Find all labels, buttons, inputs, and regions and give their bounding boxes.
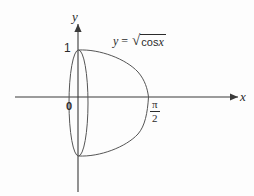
x-tick-label-pi-over-two: π 2 bbox=[150, 99, 160, 124]
curve-lower-mirrored bbox=[79, 97, 149, 156]
figure-canvas bbox=[0, 0, 254, 196]
y-axis-arrowhead bbox=[74, 24, 81, 32]
x-axis-label: x bbox=[240, 90, 246, 103]
fraction-pi-over-two: π 2 bbox=[150, 99, 160, 124]
origin-label: 0 bbox=[66, 101, 72, 112]
x-axis-arrowhead bbox=[230, 93, 238, 100]
math-figure: y x 1 0 π 2 y = √ cosx bbox=[0, 0, 254, 196]
equation-label: y = √ cosx bbox=[113, 35, 166, 50]
x-axis bbox=[15, 93, 238, 100]
fraction-numerator: π bbox=[150, 99, 160, 112]
radicand-function: cos bbox=[141, 36, 158, 48]
radicand-variable: x bbox=[158, 35, 163, 49]
equation-left-side: y bbox=[113, 35, 118, 47]
y-axis bbox=[74, 24, 81, 192]
radicand: cosx bbox=[140, 34, 165, 49]
curve-upper-sqrt-cos bbox=[79, 50, 149, 97]
radical-expression: √ cosx bbox=[132, 35, 166, 50]
equation-equals-sign: = bbox=[121, 35, 128, 47]
radical-sign-icon: √ bbox=[132, 33, 140, 48]
y-tick-label-one: 1 bbox=[64, 42, 71, 54]
y-axis-label: y bbox=[72, 10, 78, 23]
fraction-denominator: 2 bbox=[150, 112, 160, 125]
